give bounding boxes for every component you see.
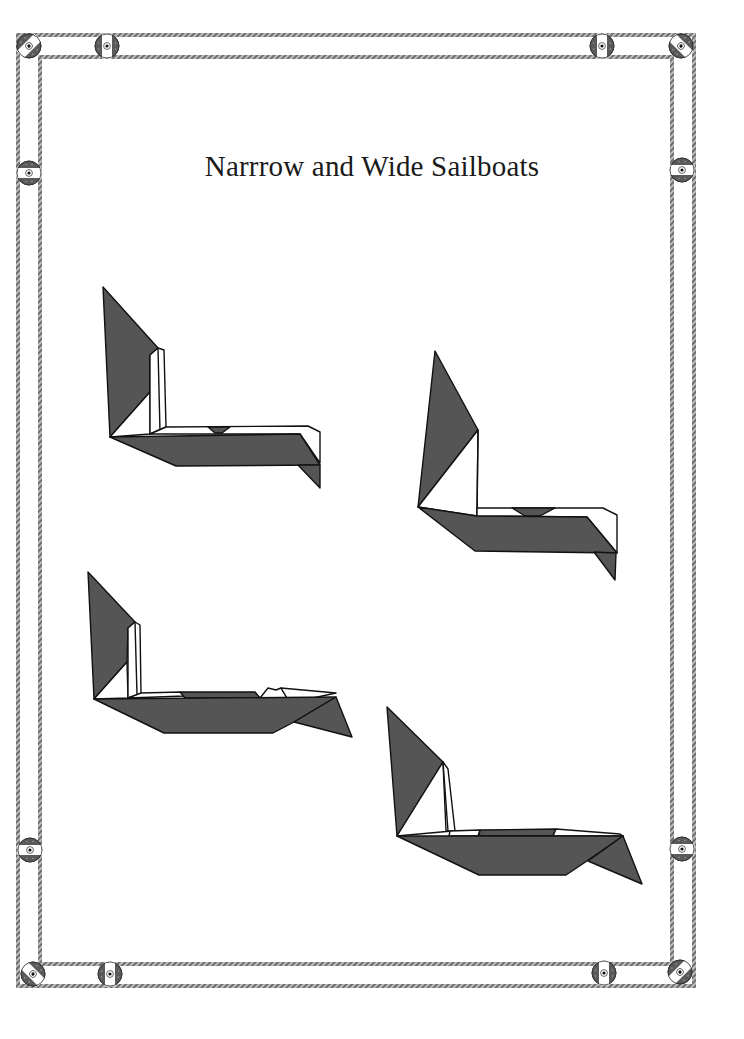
pulley-left-lower: [18, 838, 43, 862]
origami-diagram-page: Narrrow and Wide Sailboats: [0, 0, 744, 1039]
pulley-top-left: [95, 34, 119, 59]
narrow-sailboat-1: [103, 287, 320, 488]
wide-sailboat-1: [88, 572, 352, 737]
pulley-bottom-left: [98, 962, 122, 987]
pulley-bottom-right: [592, 961, 616, 986]
pulley-top-right: [590, 34, 614, 59]
narrow-sailboat-2: [418, 351, 617, 580]
wide-sailboat-2: [387, 707, 642, 884]
page-title: Narrrow and Wide Sailboats: [0, 150, 744, 183]
pulley-right-lower: [670, 837, 695, 861]
